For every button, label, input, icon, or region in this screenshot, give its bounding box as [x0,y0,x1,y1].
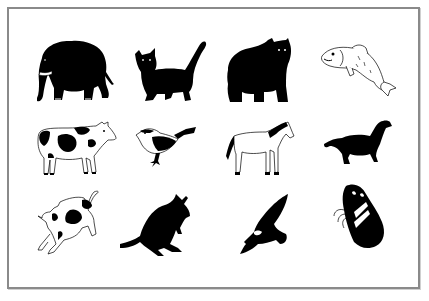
cow-figure: cow [34,118,120,178]
fish-figure: fish [318,42,398,98]
butterfly-icon [332,182,388,252]
cat-icon [133,40,209,104]
dog-icon [322,118,394,168]
bear-figure: bear [224,36,294,106]
horse-figure: horse [224,120,296,178]
elephant-figure: elephant [32,38,116,104]
calf-figure: calf [34,188,106,260]
horse-icon [224,120,296,178]
eagle-figure: eagle [236,192,292,256]
fish-icon [318,42,398,98]
bird-figure: bird [134,121,198,169]
elephant-icon [32,38,116,104]
calf-icon [34,188,106,260]
butterfly-figure: butterfly [332,182,388,252]
bear-icon [224,36,294,106]
cat-figure: cat [133,40,209,104]
bird-icon [134,121,198,169]
cow-icon [34,118,120,178]
eagle-icon [236,192,292,256]
kangaroo-icon [118,192,196,258]
dog-figure: dog [322,118,394,168]
kangaroo-figure: kangaroo [118,192,196,258]
